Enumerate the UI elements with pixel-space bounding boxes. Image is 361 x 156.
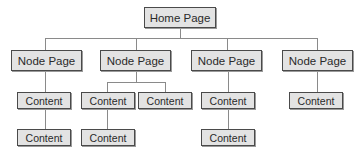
connector-node-1-content: [45, 71, 46, 92]
content-box-2-2: Content: [138, 92, 192, 109]
node-page-box-3: Node Page: [191, 50, 262, 71]
connector-node-2-branch: [107, 82, 165, 83]
connector-node-2-content-a-down: [107, 109, 108, 129]
content-box-3-1: Content: [201, 92, 255, 109]
node-page-box-2: Node Page: [100, 50, 171, 71]
content-box-3-1-1: Content: [201, 129, 255, 146]
content-box-2-1: Content: [81, 92, 135, 109]
content-box-2-1-1: Content: [81, 129, 135, 146]
connector-node-4-up: [317, 38, 318, 50]
content-box-1-1-1: Content: [17, 129, 71, 146]
connector-node-3-up: [227, 38, 228, 50]
connector-node-2-up: [136, 38, 137, 50]
connector-node-4-content: [317, 71, 318, 92]
node-page-box-1: Node Page: [11, 50, 82, 71]
connector-root-branch: [45, 38, 318, 39]
connector-node-1-content-2: [45, 109, 46, 129]
connector-node-3-content: [228, 71, 229, 92]
connector-node-3-content-2: [228, 109, 229, 129]
content-box-1-1: Content: [17, 92, 71, 109]
connector-root-down: [180, 28, 181, 38]
connector-node-1-up: [45, 38, 46, 50]
home-page-box: Home Page: [144, 7, 216, 28]
content-box-4-1: Content: [289, 92, 343, 109]
connector-node-2-content-b-up: [165, 82, 166, 92]
connector-node-2-content-a-up: [107, 82, 108, 92]
node-page-box-4: Node Page: [282, 50, 353, 71]
connector-node-2-down: [136, 71, 137, 82]
